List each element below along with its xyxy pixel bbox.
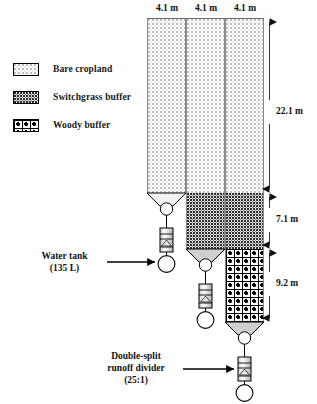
figure-canvas: Bare cropland Switchgrass buffer Woody b… <box>0 0 317 404</box>
plot-1-collar <box>160 203 172 215</box>
runoff-divider-callout-line-2: runoff divider <box>88 362 184 374</box>
plot-2-water-tank <box>197 312 214 329</box>
runoff-divider-callout: Double-split runoff divider (25:1) <box>88 350 184 386</box>
plot-3-collar <box>238 332 250 344</box>
water-tank-callout-line-2: (135 L) <box>22 262 107 274</box>
plot-3-water-tank <box>236 385 253 402</box>
dimension-label-7-1: 7.1 m <box>274 213 300 225</box>
runoff-divider-callout-line-1: Double-split <box>88 350 184 362</box>
water-tank-callout-line-1: Water tank <box>22 250 107 262</box>
dimension-label-22-1: 22.1 m <box>274 105 305 117</box>
plot-2-collar <box>199 259 211 271</box>
plot-2-apparatus <box>186 249 225 328</box>
plot-1-apparatus <box>147 193 186 272</box>
plot-1-water-tank <box>158 256 175 273</box>
water-tank-callout: Water tank (135 L) <box>22 250 107 274</box>
plot-3-apparatus <box>225 322 264 401</box>
dimension-label-9-2: 9.2 m <box>274 277 300 289</box>
apparatus-overlay <box>0 0 317 404</box>
runoff-divider-callout-line-3: (25:1) <box>88 374 184 386</box>
